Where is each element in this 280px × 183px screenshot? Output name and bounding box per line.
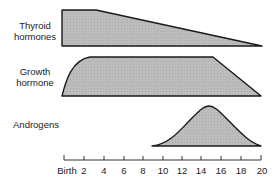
x-tick-label: 8 <box>140 165 145 176</box>
x-tick-label: 14 <box>196 165 207 176</box>
x-tick-label: 18 <box>236 165 247 176</box>
chart-canvas: Birth 2 4 6 8 10 12 14 16 18 20 Thyroid … <box>0 0 280 183</box>
x-tick-label: 20 <box>257 165 268 176</box>
androgens-area <box>152 106 261 146</box>
x-tick-label: 16 <box>216 165 227 176</box>
x-tick-labels: Birth 2 4 6 8 10 12 14 16 18 20 <box>57 165 267 176</box>
thyroid-hormones-area <box>62 10 262 46</box>
x-tick-label: 10 <box>158 165 169 176</box>
x-tick-label: Birth <box>57 165 77 176</box>
x-tick-label: 6 <box>121 165 126 176</box>
thyroid-label-line1: Thyroid <box>19 20 51 31</box>
x-tick-label: 2 <box>81 165 86 176</box>
x-tick-label: 4 <box>101 165 106 176</box>
series-labels: Thyroid hormones Growth hormone Androgen… <box>13 20 59 130</box>
x-tick-label: 12 <box>177 165 188 176</box>
x-axis <box>64 155 261 160</box>
androgens-label: Androgens <box>13 119 59 130</box>
growth-label-line2: hormone <box>16 77 54 88</box>
hormone-chart: Birth 2 4 6 8 10 12 14 16 18 20 Thyroid … <box>0 0 280 183</box>
growth-hormone-area <box>62 57 261 96</box>
thyroid-label-line2: hormones <box>14 31 56 42</box>
growth-label-line1: Growth <box>20 66 51 77</box>
